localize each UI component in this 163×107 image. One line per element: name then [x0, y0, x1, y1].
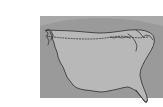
thematic-map-figure: Contiguous United States grayscale conto…: [40, 16, 163, 107]
map-canvas: [40, 16, 163, 107]
